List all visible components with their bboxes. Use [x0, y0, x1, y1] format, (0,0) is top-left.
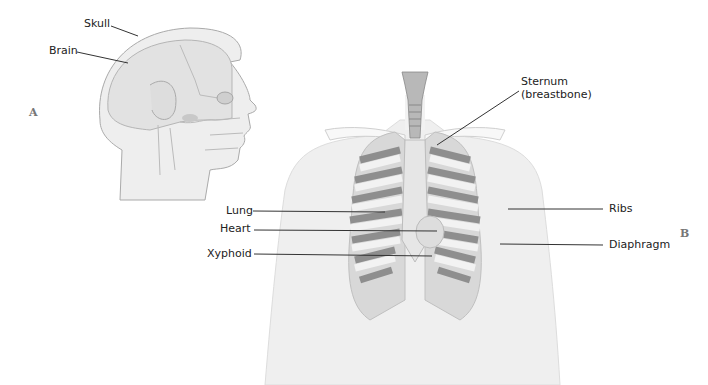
label-xyphoid: Xyphoid — [207, 248, 252, 260]
head-illustration — [100, 28, 257, 200]
label-brain: Brain — [49, 45, 78, 57]
label-lung: Lung — [226, 205, 253, 217]
label-sternum: Sternum — [521, 76, 568, 88]
torso-illustration — [265, 72, 560, 385]
label-sternum-sub: (breastbone) — [521, 89, 592, 101]
label-heart: Heart — [220, 223, 251, 235]
label-skull: Skull — [84, 18, 110, 30]
panel-label-a: A — [29, 106, 38, 119]
anatomy-illustration — [0, 0, 708, 385]
label-diaphragm: Diaphragm — [609, 239, 670, 251]
panel-label-b: B — [680, 227, 689, 240]
label-ribs: Ribs — [609, 203, 632, 215]
